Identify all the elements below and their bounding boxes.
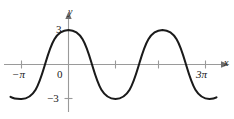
x-axis-tick-label-three-pi: 3π [196,69,207,80]
x-axis-tick-label-neg-pi: −π [12,69,25,80]
origin-label: 0 [57,69,63,80]
y-axis-tick-label-three: 3 [56,24,62,35]
y-axis-tick-label-neg-three: −3 [47,93,59,104]
x-axis-label: x [224,58,228,68]
plot-canvas [0,0,234,119]
y-axis-label: y [68,7,72,17]
math-graph-figure: −π 0 3π x y 3 −3 [0,0,234,119]
